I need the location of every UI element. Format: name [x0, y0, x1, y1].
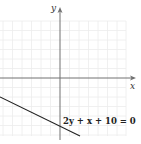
x-axis-label: x	[130, 82, 135, 91]
x-axis	[0, 76, 136, 81]
equation-label: 2y + x + 10 = 0	[63, 117, 136, 126]
y-axis	[58, 7, 63, 140]
graph-figure: y x 2y + x + 10 = 0	[0, 0, 141, 144]
y-axis-label: y	[51, 4, 56, 13]
